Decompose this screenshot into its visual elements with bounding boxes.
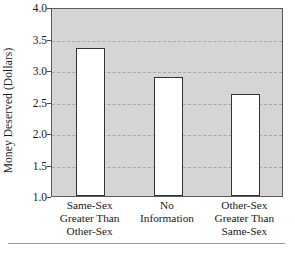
plot-area xyxy=(51,8,283,197)
bar xyxy=(76,48,105,196)
x-axis-category-label-line: Same-Sex xyxy=(51,199,128,212)
x-axis-category-label-line: Greater Than xyxy=(206,212,283,225)
x-axis-category-label-line: Same-Sex xyxy=(206,225,283,238)
x-axis-category-label: NoInformation xyxy=(128,199,205,225)
x-axis-category-label-line: Other-Sex xyxy=(51,225,128,238)
bar xyxy=(154,77,183,196)
x-axis-category-label: Same-SexGreater ThanOther-Sex xyxy=(51,199,128,239)
x-axis-category-label-line: Other-Sex xyxy=(206,199,283,212)
bar-chart-figure: Money Deserved (Dollars) 4.03.53.02.52.0… xyxy=(0,0,295,254)
x-axis-category-label-line: Greater Than xyxy=(51,212,128,225)
gridline xyxy=(52,41,282,42)
bar xyxy=(231,94,260,196)
y-axis-title: Money Deserved (Dollars) xyxy=(0,16,16,205)
x-axis-category-label-line: Information xyxy=(128,212,205,225)
y-axis-tick-mark xyxy=(47,197,51,198)
bottom-divider xyxy=(8,243,285,244)
x-axis-category-label: Other-SexGreater ThanSame-Sex xyxy=(206,199,283,239)
x-axis-category-label-line: No xyxy=(128,199,205,212)
x-axis-category-labels: Same-SexGreater ThanOther-SexNoInformati… xyxy=(51,199,283,241)
